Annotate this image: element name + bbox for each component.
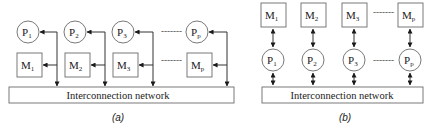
memory-node: Mp bbox=[398, 3, 423, 27]
memory-node: M3 bbox=[342, 3, 367, 27]
processor-node: Pp bbox=[399, 49, 421, 71]
ellipsis: ------- bbox=[161, 26, 182, 36]
diagram-a: P1 P2 P3 Pp M1 M2 M3 Mp bbox=[9, 21, 234, 123]
processor-node: P2 bbox=[64, 21, 86, 43]
ellipsis: ------- bbox=[161, 55, 182, 65]
processor-node: P1 bbox=[17, 21, 39, 43]
processor-node: P1 bbox=[262, 49, 284, 71]
processor-node: Pp bbox=[186, 21, 208, 43]
svg-text:Interconnection network: Interconnection network bbox=[67, 90, 171, 101]
memory-node: Mp bbox=[187, 53, 212, 77]
memory-node: M2 bbox=[301, 3, 326, 27]
interconnection-network: Interconnection network bbox=[262, 87, 423, 103]
svg-text:Interconnection network: Interconnection network bbox=[291, 90, 395, 101]
interconnection-network: Interconnection network bbox=[9, 87, 234, 103]
memory-node: M2 bbox=[65, 53, 90, 77]
ellipsis: ------- bbox=[373, 55, 394, 65]
processor-node: P3 bbox=[112, 21, 134, 43]
memory-node: M1 bbox=[261, 3, 286, 27]
memory-node: M3 bbox=[113, 53, 138, 77]
caption-a: (a) bbox=[112, 112, 124, 123]
diagram-canvas: P1 P2 P3 Pp M1 M2 M3 Mp bbox=[0, 0, 430, 129]
processor-node: P3 bbox=[343, 49, 365, 71]
memory-node: M1 bbox=[17, 53, 42, 77]
processor-node: P2 bbox=[302, 49, 324, 71]
diagram-b: M1 M2 M3 Mp P1 P2 P3 Pp bbox=[261, 3, 423, 123]
caption-b: (b) bbox=[339, 112, 351, 123]
ellipsis: ------- bbox=[373, 7, 394, 17]
